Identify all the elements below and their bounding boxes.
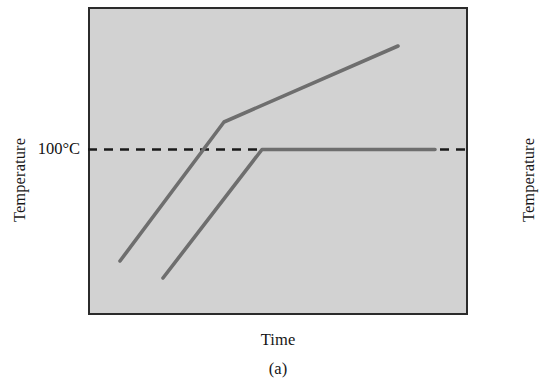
y-axis-tick-label-100c: 100°C [38,139,80,159]
plot-area [88,7,468,315]
x-axis-label: Time [261,330,296,350]
y-axis-label-right: Temperature [519,138,539,222]
y-axis-label-left: Temperature [10,138,30,222]
panel-caption: (a) [269,359,287,379]
figure-panel-a: 100°C Temperature Temperature Time (a) [0,0,548,383]
